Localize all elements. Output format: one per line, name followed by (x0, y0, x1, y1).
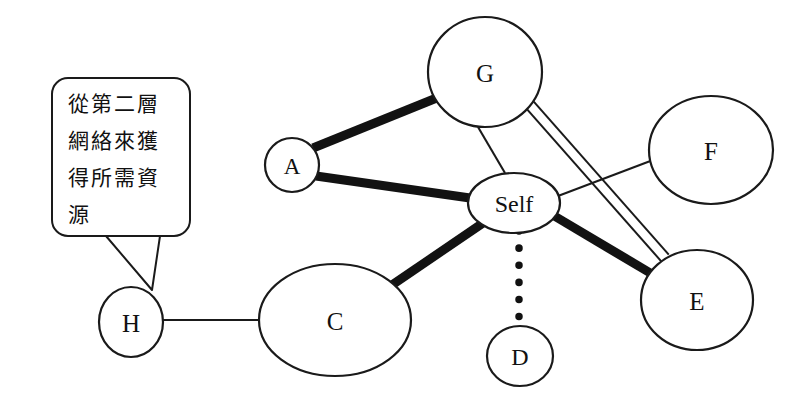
node-a[interactable]: A (265, 138, 319, 192)
node-f-label: F (704, 138, 718, 165)
network-diagram-canvas: GASelfFECHD 從第二層網絡來獲得所需資源 (0, 0, 798, 409)
node-self-label: Self (495, 191, 534, 217)
node-c[interactable]: C (259, 264, 411, 376)
node-d-label: D (511, 344, 528, 370)
node-self[interactable]: Self (468, 173, 560, 233)
speech-bubble-line-3: 得所需資 (68, 166, 160, 190)
network-diagram: GASelfFECHD 從第二層網絡來獲得所需資源 (0, 0, 798, 409)
node-h-label: H (122, 310, 140, 337)
node-c-label: C (327, 308, 344, 335)
speech-bubble-line-2: 網絡來獲 (68, 129, 160, 153)
node-e-label: E (689, 288, 704, 315)
node-g[interactable]: G (428, 17, 542, 127)
speech-bubble-line-1: 從第二層 (68, 92, 160, 116)
node-e[interactable]: E (641, 250, 753, 350)
node-f[interactable]: F (649, 96, 773, 204)
node-a-label: A (284, 154, 301, 179)
node-d[interactable]: D (487, 326, 553, 386)
node-g-label: G (476, 60, 494, 87)
speech-bubble-line-4: 源 (68, 203, 91, 227)
node-h[interactable]: H (99, 287, 163, 357)
